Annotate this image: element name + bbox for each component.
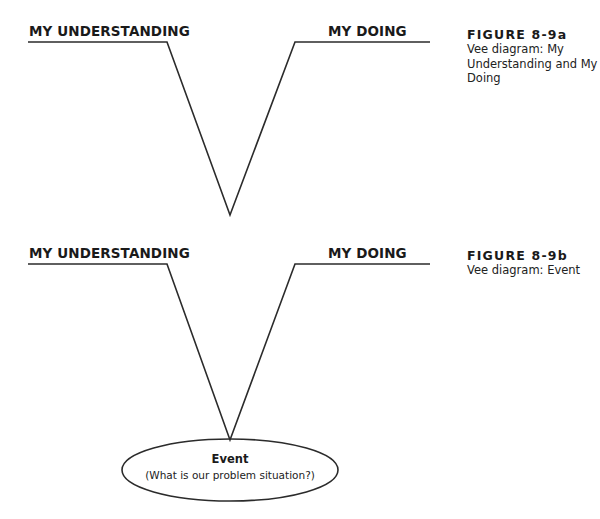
figure-b-caption: FIGURE 8-9b Vee diagram: Event <box>467 248 600 278</box>
vee-b-left-label: MY UNDERSTANDING <box>29 245 190 261</box>
figure-b-caption-title: FIGURE 8-9b <box>467 248 600 263</box>
vee-a-right-label: MY DOING <box>328 23 407 39</box>
vee-b-right-label: MY DOING <box>328 245 407 261</box>
figure-a-caption-title: FIGURE 8-9a <box>467 27 600 42</box>
figure-a-caption: FIGURE 8-9a Vee diagram: My Understandin… <box>467 27 600 86</box>
event-subtitle: (What is our problem situation?) <box>122 469 338 481</box>
vee-a-shape <box>28 42 430 215</box>
event-node: Event (What is our problem situation?) <box>122 452 338 481</box>
figure-b-caption-text: Vee diagram: Event <box>467 263 600 278</box>
vee-a-left-label: MY UNDERSTANDING <box>29 23 190 39</box>
figure-a-caption-text: Vee diagram: My Understanding and My Doi… <box>467 42 600 86</box>
event-title: Event <box>122 452 338 466</box>
